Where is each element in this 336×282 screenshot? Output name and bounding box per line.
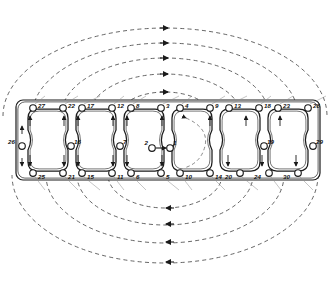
- bolt-label-26: 26: [7, 138, 15, 145]
- bore-1-outline: [28, 109, 68, 171]
- bolt-label-5: 5: [166, 173, 170, 180]
- bolt-label-9: 9: [215, 102, 219, 109]
- bolt-hole-3[interactable]: [158, 105, 165, 112]
- bolt-label-30: 30: [283, 173, 290, 180]
- bolt-hole-23[interactable]: [275, 105, 282, 112]
- bolt-hole-11[interactable]: [109, 170, 116, 177]
- bolt-hole-26[interactable]: [19, 143, 26, 150]
- bolt-hole-30[interactable]: [295, 170, 302, 177]
- bolt-label-13: 13: [234, 102, 241, 109]
- bolt-label-28: 28: [312, 102, 320, 109]
- bolt-label-12: 12: [117, 102, 124, 109]
- bolt-label-18: 18: [264, 102, 271, 109]
- bolt-label-17: 17: [87, 102, 94, 109]
- bolt-label-22: 22: [67, 102, 75, 109]
- bolt-label-7: 7: [123, 138, 127, 145]
- bolt-label-24: 24: [253, 173, 261, 180]
- bolt-label-8: 8: [136, 102, 140, 109]
- bolt-hole-15[interactable]: [79, 170, 86, 177]
- bolt-hole-20[interactable]: [237, 170, 244, 177]
- bolt-hole-28[interactable]: [305, 105, 312, 112]
- bore-4-outline: [172, 109, 212, 171]
- bolt-label-25: 25: [37, 173, 45, 180]
- diagram-canvas: 2722171283491318232825211511651014202430…: [0, 0, 336, 282]
- bolt-label-3: 3: [166, 102, 170, 109]
- bolt-label-29: 29: [315, 138, 323, 145]
- bolt-label-23: 23: [282, 102, 290, 109]
- bottom-arc-3: [46, 175, 284, 243]
- bore-5-outline: [220, 109, 260, 171]
- bottom-arc-2: [77, 175, 253, 225]
- bolt-hole-8[interactable]: [128, 105, 135, 112]
- bore-2-outline: [76, 109, 116, 171]
- bottom-arc-4: [12, 175, 318, 263]
- bolt-label-19: 19: [267, 138, 274, 145]
- bolt-label-2: 2: [144, 139, 149, 146]
- bottom-dashed-arcs: [12, 175, 318, 263]
- bolt-hole-9[interactable]: [207, 105, 214, 112]
- bolt-hole-12[interactable]: [109, 105, 116, 112]
- bolt-label-20: 20: [224, 173, 232, 180]
- bolt-label-6: 6: [136, 173, 140, 180]
- bolt-hole-27[interactable]: [30, 105, 37, 112]
- bolt-hole-5[interactable]: [158, 170, 165, 177]
- bolt-hole-21[interactable]: [60, 170, 67, 177]
- bolt-hole-1[interactable]: [167, 145, 174, 152]
- bolt-hole-6[interactable]: [128, 170, 135, 177]
- bolt-label-1: 1: [173, 139, 177, 146]
- bolt-hole-2[interactable]: [149, 145, 156, 152]
- bolt-hole-25[interactable]: [30, 170, 37, 177]
- bolt-label-14: 14: [215, 173, 222, 180]
- bolt-hole-10[interactable]: [177, 170, 184, 177]
- gasket-sequence-diagram: 2722171283491318232825211511651014202430…: [0, 0, 336, 282]
- bolt-label-15: 15: [87, 173, 94, 180]
- bolt-label-27: 27: [37, 102, 45, 109]
- gasket-body: [16, 100, 320, 180]
- bolt-label-16: 16: [74, 138, 81, 145]
- bolt-label-10: 10: [185, 173, 192, 180]
- bolt-hole-13[interactable]: [226, 105, 233, 112]
- bolt-hole-24[interactable]: [266, 170, 273, 177]
- bolt-hole-4[interactable]: [177, 105, 184, 112]
- bolt-label-21: 21: [67, 173, 75, 180]
- bolt-hole-14[interactable]: [207, 170, 214, 177]
- bolt-label-4: 4: [184, 102, 189, 109]
- bolt-hole-18[interactable]: [256, 105, 263, 112]
- bolt-hole-22[interactable]: [60, 105, 67, 112]
- bolt-label-11: 11: [117, 173, 124, 180]
- bore-6-outline: [268, 109, 308, 171]
- bolt-hole-17[interactable]: [79, 105, 86, 112]
